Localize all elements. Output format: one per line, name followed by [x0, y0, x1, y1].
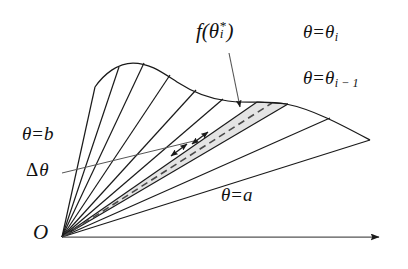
label-f-theta-star: f(θ*i)	[196, 16, 233, 42]
label-delta-theta: Δθ	[25, 160, 49, 179]
delta-theta-symbol: θ	[39, 159, 48, 180]
theta-i-lhs: θ	[303, 21, 312, 42]
ray-theta-b	[62, 87, 95, 237]
theta-im1-rhs: θ	[325, 67, 334, 88]
theta-a-rhs: a	[243, 184, 253, 205]
label-f-index: i	[220, 28, 227, 40]
delta-symbol: Δ	[25, 159, 39, 180]
theta-i-rhs: θ	[325, 21, 334, 42]
ray-theta-i-minus-1	[62, 104, 288, 237]
polar-area-diagram: f(θ*i) θ=θi θ=θi − 1 θ=b Δθ θ=a O	[0, 0, 408, 269]
theta-a-lhs: θ	[221, 184, 230, 205]
f-star-leader-line	[229, 53, 240, 107]
theta-a-equals: =	[230, 184, 243, 205]
label-f-close-paren: )	[226, 19, 233, 43]
theta-i-equals: =	[312, 21, 325, 42]
label-theta-equals-theta-i-minus-1: θ=θi − 1	[303, 68, 359, 90]
label-theta-equals-theta-i: θ=θi	[303, 22, 338, 44]
theta-b-equals: =	[31, 123, 44, 144]
theta-b-rhs: b	[44, 123, 54, 144]
label-f-theta: θ	[209, 19, 219, 43]
label-f-star-index: *i	[219, 17, 226, 42]
ray-theta-a	[62, 140, 370, 237]
theta-b-lhs: θ	[22, 123, 31, 144]
label-origin: O	[33, 222, 48, 243]
label-theta-equals-a: θ=a	[221, 185, 253, 204]
ray-divider-1	[62, 67, 119, 237]
theta-i-subscript: i	[334, 30, 338, 44]
theta-im1-lhs: θ	[303, 67, 312, 88]
label-f-open-paren: (	[202, 19, 209, 43]
theta-im1-equals: =	[312, 67, 325, 88]
ray-divider-5	[62, 99, 223, 237]
theta-im1-subscript: i − 1	[334, 76, 358, 90]
label-theta-equals-b: θ=b	[22, 124, 54, 143]
ray-theta-i	[62, 102, 257, 237]
